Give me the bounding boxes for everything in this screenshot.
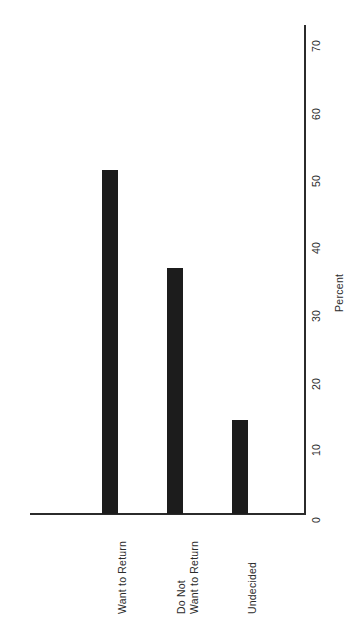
value-axis-tick-70: 70 — [309, 18, 323, 52]
value-axis-title: Percent — [333, 274, 345, 312]
value-axis-tick-0: 0 — [309, 489, 323, 523]
category-label-line1: Undecided — [246, 562, 258, 614]
value-axis-tick-60: 60 — [309, 86, 323, 120]
bar-undecided — [232, 420, 248, 514]
bar-want-to-return — [102, 170, 118, 514]
value-axis-tick-50: 50 — [309, 153, 323, 187]
category-label-undecided: Undecided — [246, 562, 259, 614]
value-axis-tick-30: 30 — [309, 288, 323, 322]
value-axis-tick-10: 10 — [309, 422, 323, 456]
category-label-line1: Want to Return — [116, 541, 128, 614]
bar-do-not-want-to-return — [167, 268, 183, 514]
bar-chart-figure: 0 10 20 30 40 50 60 70 Percent Want to R… — [0, 0, 349, 624]
value-axis-tick-20: 20 — [309, 356, 323, 390]
value-axis-tick-40: 40 — [309, 220, 323, 254]
category-label-line1: Do Not — [175, 580, 187, 614]
value-axis-line — [304, 25, 306, 515]
category-label-line2: Want to Return — [188, 541, 201, 614]
category-label-want-to-return: Want to Return — [116, 541, 129, 614]
category-label-do-not-want-to-return: Do Not Want to Return — [175, 541, 200, 614]
